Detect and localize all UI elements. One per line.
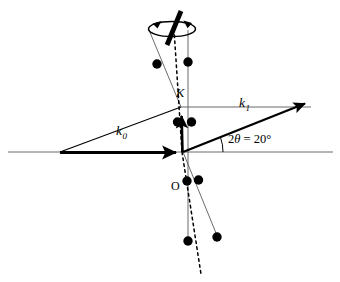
upper-left-node <box>152 59 161 68</box>
O-label: O <box>171 180 180 192</box>
tilt-axis-dashed-lower <box>182 152 201 274</box>
k0-label: k0 <box>116 124 127 138</box>
below-right-node <box>194 175 203 184</box>
lower-left-node <box>183 236 192 245</box>
K-label: K <box>176 87 184 100</box>
k0-label-subscript: 0 <box>123 131 128 141</box>
upper-right-node <box>183 57 192 66</box>
two-theta-value: = 20° <box>240 132 271 146</box>
two-theta-label: 2θ = 20° <box>228 133 271 146</box>
center-right-node <box>187 117 196 126</box>
k1-label-base: k <box>239 95 245 110</box>
k1-label-subscript: 1 <box>246 103 251 113</box>
two-theta-arc <box>221 138 223 152</box>
k0-label-base: k <box>116 123 122 138</box>
center-left-node <box>173 117 182 126</box>
k1-label: k1 <box>239 96 250 110</box>
diagram-canvas <box>0 0 340 282</box>
below-left-node <box>182 176 191 185</box>
rotation-arrow-right-icon <box>183 21 192 29</box>
rotation-rod <box>167 11 181 45</box>
lower-right-node <box>212 232 221 241</box>
rotation-arrow-left-icon <box>153 21 162 29</box>
scattering-diagram-figure: k0 k1 K O 2θ = 20° <box>0 0 340 282</box>
